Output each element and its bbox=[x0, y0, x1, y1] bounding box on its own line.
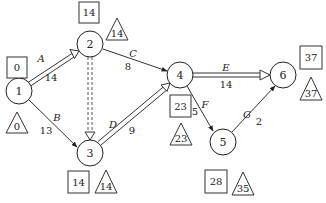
node-6-early: 37 bbox=[305, 52, 318, 63]
node-6: 6 37 37 bbox=[270, 46, 322, 100]
activity-a-edge: A 14 bbox=[28, 50, 79, 87]
node-5-late: 35 bbox=[237, 183, 250, 194]
activity-e-duration: 14 bbox=[220, 79, 233, 90]
node-4-label: 4 bbox=[177, 69, 184, 82]
activity-f-name: F bbox=[201, 99, 210, 110]
node-4: 4 23 23 bbox=[167, 62, 193, 145]
activity-e-name: E bbox=[221, 62, 230, 73]
activity-g-edge: G 2 bbox=[232, 86, 275, 132]
activity-a-duration: 14 bbox=[45, 72, 58, 83]
activity-d-duration: 9 bbox=[129, 125, 135, 136]
node-2-late: 14 bbox=[111, 28, 124, 39]
node-3: 3 14 14 bbox=[68, 140, 117, 193]
activity-d-edge: D 9 bbox=[98, 83, 170, 145]
node-5-label: 5 bbox=[220, 136, 227, 149]
dummy-activity-edge bbox=[85, 57, 95, 140]
node-2-label: 2 bbox=[87, 38, 94, 51]
node-1-label: 1 bbox=[16, 85, 23, 98]
node-4-late: 23 bbox=[175, 133, 188, 144]
hollow-arrowhead-icon bbox=[85, 132, 95, 140]
activity-c-duration: 8 bbox=[125, 61, 131, 72]
activity-c-name: C bbox=[129, 48, 137, 59]
node-2: 2 14 14 bbox=[77, 2, 128, 57]
node-5: 5 28 35 bbox=[205, 129, 254, 195]
node-1: 1 0 0 bbox=[6, 57, 32, 133]
node-3-early: 14 bbox=[72, 177, 85, 188]
node-4-early: 23 bbox=[174, 101, 187, 112]
node-5-early: 28 bbox=[210, 176, 223, 187]
node-1-early: 0 bbox=[14, 62, 20, 73]
activity-g-name: G bbox=[243, 109, 251, 120]
network-diagram: A 14 B 13 C 8 D 9 E 14 F 5 bbox=[0, 0, 326, 203]
activity-b-name: B bbox=[52, 112, 60, 123]
node-2-early: 14 bbox=[83, 7, 96, 18]
node-3-label: 3 bbox=[87, 147, 94, 160]
node-6-late: 37 bbox=[305, 88, 318, 99]
node-3-late: 14 bbox=[100, 181, 113, 192]
activity-f-duration: 5 bbox=[192, 106, 198, 117]
node-1-late: 0 bbox=[14, 121, 20, 132]
activity-b-edge: B 13 bbox=[29, 100, 77, 147]
node-6-label: 6 bbox=[280, 69, 287, 82]
activity-g-duration: 2 bbox=[256, 116, 262, 127]
hollow-arrowhead-icon bbox=[260, 70, 270, 80]
activity-d-name: D bbox=[108, 119, 117, 130]
activity-c-edge: C 8 bbox=[103, 48, 167, 72]
activity-a-name: A bbox=[36, 53, 44, 64]
activity-e-edge: E 14 bbox=[193, 62, 270, 90]
activity-b-duration: 13 bbox=[40, 125, 53, 136]
